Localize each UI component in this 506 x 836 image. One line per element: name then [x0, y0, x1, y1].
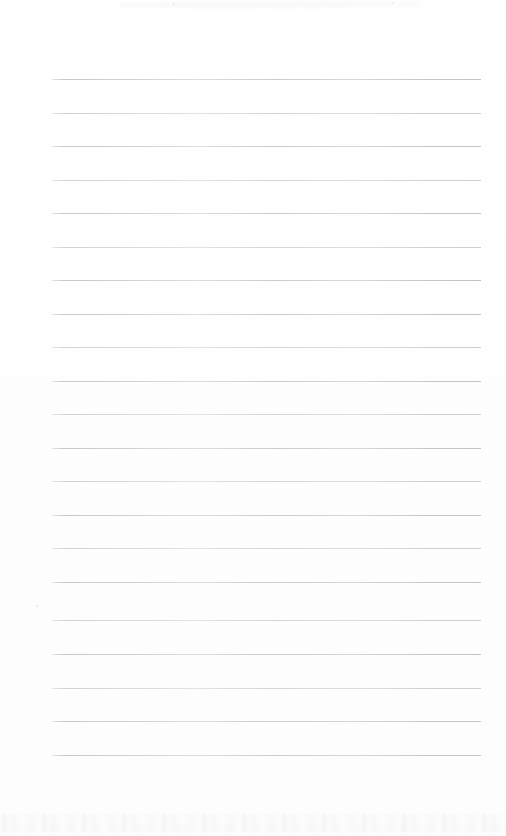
notepad-page	[0, 0, 506, 836]
writing-area[interactable]	[52, 60, 481, 770]
